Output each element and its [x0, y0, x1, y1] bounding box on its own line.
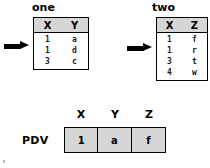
- dataset-one-column-y: Y: [61, 19, 88, 32]
- cell-x: 3: [157, 57, 182, 67]
- table-row: 3 c: [34, 56, 88, 67]
- pdv-label: PDV: [22, 134, 49, 147]
- cell-x: 1: [34, 46, 61, 56]
- pdv-column-y: Y: [98, 108, 132, 121]
- table-row: 1 r: [157, 45, 207, 56]
- dataset-one-column-x: X: [34, 19, 61, 32]
- pdv-value-z: f: [132, 128, 165, 152]
- arrow-head: [143, 43, 152, 51]
- pdv-value-row: 1 a f: [64, 127, 166, 153]
- merge-diagram-canvas: one X Y 1 a 1 d 3 c two X Z: [0, 0, 210, 168]
- dataset-two-column-x: X: [157, 19, 182, 32]
- table-row: 1 f: [157, 34, 207, 45]
- scan-speck: [3, 160, 5, 163]
- read-pointer-arrow-icon-one: [4, 41, 30, 50]
- dataset-two-header-row: X Z: [157, 18, 207, 33]
- cell-z: r: [182, 46, 207, 56]
- dataset-two-column-z: Z: [182, 19, 207, 32]
- cell-x: 1: [157, 46, 182, 56]
- dataset-one-table: X Y 1 a 1 d 3 c: [33, 17, 89, 70]
- read-pointer-arrow-icon-two: [127, 43, 153, 52]
- arrow-head: [20, 41, 29, 49]
- cell-x: 1: [34, 35, 61, 45]
- dataset-one-title: one: [32, 1, 55, 14]
- cell-z: t: [182, 57, 207, 67]
- pdv-column-x: X: [64, 108, 98, 121]
- table-row: 3 t: [157, 56, 207, 67]
- cell-y: a: [61, 35, 88, 45]
- dataset-two-body: 1 f 1 r 3 t 4 w: [157, 33, 207, 80]
- pdv-value-y: a: [98, 128, 131, 152]
- cell-z: w: [182, 68, 207, 78]
- cell-z: f: [182, 35, 207, 45]
- cell-x: 3: [34, 57, 61, 67]
- cell-x: 4: [157, 68, 182, 78]
- dataset-two-title: two: [152, 1, 175, 14]
- pdv-column-z: Z: [132, 108, 166, 121]
- arrow-shaft: [4, 44, 21, 49]
- arrow-shaft: [127, 46, 144, 51]
- cell-y: c: [61, 57, 88, 67]
- cell-x: 1: [157, 35, 182, 45]
- table-row: 1 a: [34, 34, 88, 45]
- pdv-column-headers: X Y Z: [64, 108, 166, 121]
- table-row: 1 d: [34, 45, 88, 56]
- pdv-value-x: 1: [65, 128, 98, 152]
- table-row: 4 w: [157, 67, 207, 78]
- cell-y: d: [61, 46, 88, 56]
- dataset-one-body: 1 a 1 d 3 c: [34, 33, 88, 69]
- dataset-one-header-row: X Y: [34, 18, 88, 33]
- dataset-two-table: X Z 1 f 1 r 3 t 4 w: [156, 17, 208, 81]
